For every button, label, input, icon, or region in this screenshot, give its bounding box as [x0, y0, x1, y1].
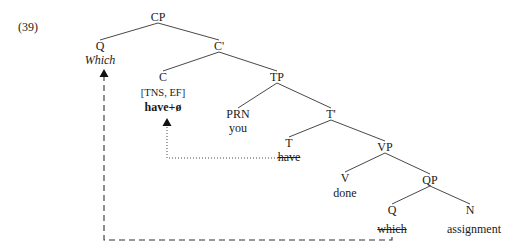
tree-branch: [219, 52, 277, 71]
tree-node-tp: TP: [270, 71, 284, 83]
tree-branch: [277, 83, 331, 108]
tree-node-tbar: T': [326, 108, 336, 120]
tree-node-q2: Q: [388, 204, 397, 216]
tree-branches-layer: [0, 0, 527, 251]
tree-node-qp: QP: [422, 174, 437, 186]
movement-line-have-to-c: [167, 124, 281, 158]
tree-node-t: T: [285, 137, 292, 149]
tree-branch: [158, 23, 219, 40]
terminal-which-top: Which: [85, 54, 116, 66]
tree-node-q1: Q: [96, 40, 105, 52]
movement-line-which-to-spec-cp: [104, 73, 392, 240]
terminal-have-plus: have+ø: [145, 101, 182, 113]
tree-node-n: N: [466, 204, 475, 216]
tree-branch: [392, 186, 430, 204]
tree-branch: [385, 153, 430, 174]
tree-node-cp: CP: [151, 11, 166, 23]
tree-branch: [289, 120, 331, 137]
syntax-tree-figure: (39) CPQC'CTPPRNT'TVPVQPQN[TNS, EF]Which…: [0, 0, 527, 251]
terminal-assignment: assignment: [447, 223, 501, 235]
movement-arrowhead-which-to-spec-cp: [100, 69, 109, 77]
tree-branch: [238, 83, 277, 108]
terminal-which-trace: which: [377, 223, 406, 235]
tree-branch: [331, 120, 385, 141]
tree-node-c: C: [159, 71, 167, 83]
tree-node-vp: VP: [377, 141, 392, 153]
terminal-have-trace: have: [278, 151, 301, 163]
tree-branch: [163, 52, 219, 71]
tree-node-cbar: C': [214, 40, 224, 52]
tree-node-prn: PRN: [226, 108, 249, 120]
movement-arrowhead-have-to-c: [163, 118, 172, 126]
tree-branch: [100, 23, 158, 40]
feature-bundle-c-features: [TNS, EF]: [141, 87, 185, 98]
tree-branch: [345, 153, 385, 172]
tree-branch: [430, 186, 470, 204]
terminal-you: you: [229, 122, 247, 134]
tree-node-v: V: [341, 172, 350, 184]
terminal-done: done: [333, 187, 356, 199]
